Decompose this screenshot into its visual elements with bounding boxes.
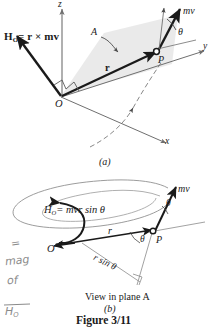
label-theta-lower-b: θ xyxy=(140,235,145,245)
formula-H-symbol: H xyxy=(44,204,52,215)
pencil-note-line-4: HO xyxy=(5,306,19,319)
point-o-marker-b xyxy=(55,243,59,247)
panel-b-graphics xyxy=(0,0,214,329)
formula-H-O-magnitude: HO= mvr sin θ xyxy=(44,205,105,216)
label-vector-r-b: r xyxy=(108,226,112,236)
pencil-note-H-sub: O xyxy=(13,311,18,319)
label-origin-b: O xyxy=(47,244,55,255)
label-theta-upper-b: θ xyxy=(166,199,171,209)
pencil-note-line-2: mag xyxy=(4,254,29,267)
point-p-marker-b xyxy=(150,228,156,234)
label-vector-mv-b: mv xyxy=(178,184,190,194)
formula-H-rest: = mvr sin θ xyxy=(56,204,105,215)
pencil-note-line-1: = xyxy=(10,237,21,249)
pencil-note-line-3: of xyxy=(7,275,18,287)
panel-b-subtitle: View in plane A xyxy=(85,292,150,302)
panel-b-caption: (b) xyxy=(104,304,116,314)
label-point-p-b: P xyxy=(156,235,162,245)
figure-3-11: HO= r × mv z y x O P A r mv θ (a) xyxy=(0,0,214,329)
figure-caption: Figure 3/11 xyxy=(76,315,131,327)
